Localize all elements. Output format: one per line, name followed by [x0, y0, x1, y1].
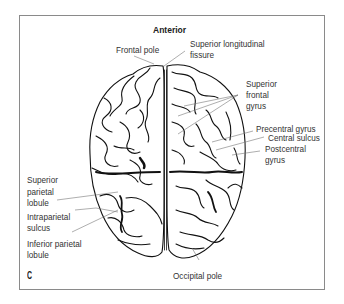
- leader-lines: [57, 51, 264, 260]
- label-frontal-pole: Frontal pole: [116, 46, 159, 57]
- label-superior-longitudinal-fissure-line1: Superior longitudinal: [190, 40, 265, 51]
- label-occipital-pole: Occipital pole: [173, 272, 222, 283]
- right-hemisphere-outline: [167, 65, 245, 258]
- label-superior-longitudinal-fissure-line2: fissure: [190, 51, 214, 62]
- label-postcentral-gyrus-line2: gyrus: [265, 156, 285, 167]
- panel-letter: C: [27, 270, 32, 281]
- label-superior-parietal-lobule-line2: parietal: [27, 188, 54, 199]
- label-inferior-parietal-lobule-line1: Inferior parietal: [27, 240, 82, 251]
- label-postcentral-gyrus-line1: Postcentral: [265, 145, 306, 156]
- label-central-sulcus: Central sulcus: [268, 134, 320, 145]
- label-superior-parietal-lobule-line1: Superior: [27, 176, 58, 187]
- label-superior-frontal-gyrus-line3: gyrus: [246, 102, 266, 113]
- label-inferior-parietal-lobule-line2: lobule: [27, 251, 49, 262]
- label-superior-frontal-gyrus-line2: frontal: [246, 91, 269, 102]
- label-intraparietal-sulcus-line2: sulcus: [27, 224, 50, 235]
- label-superior-parietal-lobule-line3: lobule: [27, 199, 49, 210]
- label-superior-frontal-gyrus-line1: Superior: [246, 80, 277, 91]
- label-intraparietal-sulcus-line1: Intraparietal: [27, 213, 70, 224]
